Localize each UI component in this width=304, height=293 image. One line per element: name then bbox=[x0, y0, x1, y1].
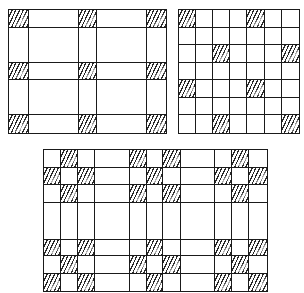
empty-cell bbox=[215, 256, 232, 274]
empty-cell bbox=[249, 185, 267, 203]
empty-cell bbox=[265, 28, 282, 46]
hatched-cell bbox=[215, 168, 232, 186]
hatched-cell bbox=[147, 168, 163, 186]
hatched-cell bbox=[61, 256, 78, 274]
empty-cell bbox=[196, 98, 213, 116]
hatched-cell bbox=[163, 150, 181, 168]
hatched-cell bbox=[147, 274, 163, 291]
hatched-cell bbox=[79, 63, 97, 80]
hatched-cell bbox=[44, 168, 61, 186]
empty-cell bbox=[181, 240, 216, 257]
empty-cell bbox=[179, 115, 196, 133]
empty-cell bbox=[29, 80, 79, 115]
empty-cell bbox=[265, 98, 282, 116]
empty-cell bbox=[163, 240, 181, 257]
hatched-cell bbox=[9, 10, 29, 28]
empty-cell bbox=[147, 256, 163, 274]
empty-cell bbox=[230, 115, 247, 133]
hatched-cell bbox=[44, 240, 61, 257]
empty-cell bbox=[130, 203, 147, 239]
hatched-cell bbox=[232, 185, 249, 203]
hatched-cell bbox=[130, 185, 147, 203]
empty-cell bbox=[147, 28, 166, 63]
empty-cell bbox=[147, 185, 163, 203]
empty-cell bbox=[196, 28, 213, 46]
hatched-cell bbox=[78, 168, 95, 186]
empty-cell bbox=[181, 256, 216, 274]
empty-cell bbox=[196, 45, 213, 63]
hatched-cell bbox=[249, 274, 267, 291]
empty-cell bbox=[61, 274, 78, 291]
empty-cell bbox=[196, 80, 213, 98]
hatched-cell bbox=[163, 185, 181, 203]
hatched-cell bbox=[61, 150, 78, 168]
empty-cell bbox=[247, 115, 264, 133]
empty-cell bbox=[44, 185, 61, 203]
empty-cell bbox=[230, 45, 247, 63]
empty-cell bbox=[44, 203, 61, 239]
empty-cell bbox=[130, 274, 147, 291]
empty-cell bbox=[29, 28, 79, 63]
empty-cell bbox=[265, 115, 282, 133]
empty-cell bbox=[213, 63, 230, 81]
empty-cell bbox=[95, 203, 131, 239]
empty-cell bbox=[78, 185, 95, 203]
empty-cell bbox=[61, 168, 78, 186]
empty-cell bbox=[61, 240, 78, 257]
empty-cell bbox=[230, 10, 247, 28]
empty-cell bbox=[179, 45, 196, 63]
grid-bottom bbox=[43, 149, 268, 292]
empty-cell bbox=[61, 203, 78, 239]
empty-cell bbox=[97, 115, 147, 133]
empty-cell bbox=[196, 10, 213, 28]
empty-cell bbox=[265, 10, 282, 28]
empty-cell bbox=[181, 203, 216, 239]
empty-cell bbox=[163, 203, 181, 239]
hatched-cell bbox=[44, 274, 61, 291]
empty-cell bbox=[282, 80, 299, 98]
empty-cell bbox=[247, 63, 264, 81]
hatched-cell bbox=[78, 240, 95, 257]
empty-cell bbox=[130, 240, 147, 257]
empty-cell bbox=[130, 168, 147, 186]
hatched-cell bbox=[215, 274, 232, 291]
empty-cell bbox=[247, 45, 264, 63]
empty-cell bbox=[232, 274, 249, 291]
empty-cell bbox=[95, 240, 131, 257]
hatched-cell bbox=[79, 10, 97, 28]
empty-cell bbox=[163, 274, 181, 291]
empty-cell bbox=[249, 256, 267, 274]
hatched-cell bbox=[9, 115, 29, 133]
empty-cell bbox=[163, 168, 181, 186]
empty-cell bbox=[95, 185, 131, 203]
hatched-cell bbox=[130, 150, 147, 168]
empty-cell bbox=[213, 28, 230, 46]
empty-cell bbox=[97, 28, 147, 63]
empty-cell bbox=[232, 240, 249, 257]
hatched-cell bbox=[215, 240, 232, 257]
grid-top-right bbox=[178, 9, 300, 134]
empty-cell bbox=[179, 28, 196, 46]
hatched-cell bbox=[282, 45, 299, 63]
empty-cell bbox=[79, 80, 97, 115]
hatched-cell bbox=[61, 185, 78, 203]
hatched-cell bbox=[9, 63, 29, 80]
empty-cell bbox=[97, 63, 147, 80]
empty-cell bbox=[95, 150, 131, 168]
hatched-cell bbox=[249, 240, 267, 257]
empty-cell bbox=[95, 256, 131, 274]
empty-cell bbox=[29, 63, 79, 80]
empty-cell bbox=[265, 45, 282, 63]
empty-cell bbox=[232, 203, 249, 239]
empty-cell bbox=[232, 168, 249, 186]
empty-cell bbox=[97, 80, 147, 115]
empty-cell bbox=[78, 256, 95, 274]
empty-cell bbox=[97, 10, 147, 28]
empty-cell bbox=[282, 28, 299, 46]
empty-cell bbox=[215, 150, 232, 168]
empty-cell bbox=[213, 98, 230, 116]
hatched-cell bbox=[247, 10, 264, 28]
empty-cell bbox=[95, 274, 131, 291]
hatched-cell bbox=[249, 168, 267, 186]
empty-cell bbox=[247, 98, 264, 116]
